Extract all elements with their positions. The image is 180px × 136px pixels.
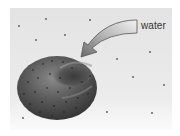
diagram-panel: water (0, 0, 180, 136)
water-label: water (141, 20, 166, 31)
red-blood-cell (17, 56, 97, 120)
